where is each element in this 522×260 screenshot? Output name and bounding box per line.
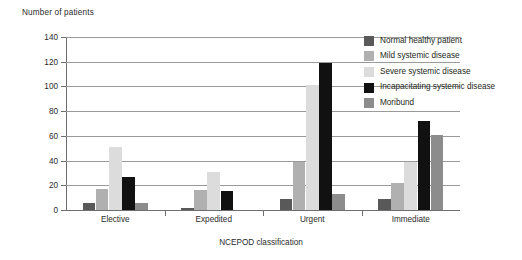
y-axis-title: Number of patients: [22, 8, 94, 17]
y-axis-tick-label: 20: [49, 181, 58, 190]
x-axis-tick-label: Immediate: [392, 215, 430, 224]
y-axis-tick-label: 140: [44, 33, 58, 42]
y-axis-tick: [61, 86, 66, 87]
legend-item: Mild systemic disease: [364, 49, 495, 65]
chart-legend: Normal healthy patientMild systemic dise…: [364, 33, 495, 111]
bar: [221, 191, 234, 210]
legend-label: Incapacitating systemic disease: [380, 83, 495, 91]
y-axis-tick: [61, 62, 66, 63]
bar-group: [181, 37, 246, 210]
y-axis-line: [66, 37, 67, 210]
legend-item: Severe systemic disease: [364, 64, 495, 80]
y-axis-tick-label: 60: [49, 131, 58, 140]
legend-item: Incapacitating systemic disease: [364, 80, 495, 96]
bar: [418, 121, 431, 210]
bar: [378, 199, 391, 210]
bar: [109, 147, 122, 210]
bar: [280, 199, 293, 210]
y-axis-tick-label: 80: [49, 107, 58, 116]
bar-group: [280, 37, 345, 210]
y-axis-tick-label: 40: [49, 156, 58, 165]
bar: [181, 208, 194, 210]
y-axis-tick: [61, 210, 66, 211]
bar: [83, 203, 96, 210]
x-axis-tick: [263, 210, 264, 216]
bar: [122, 177, 135, 210]
legend-swatch: [364, 51, 374, 61]
legend-label: Normal healthy patient: [380, 37, 462, 45]
x-axis-tick: [362, 210, 363, 216]
y-axis-tick: [61, 136, 66, 137]
bar: [207, 172, 220, 210]
x-axis-title: NCEPOD classification: [0, 238, 522, 247]
y-axis-tick: [61, 111, 66, 112]
bar: [306, 85, 319, 210]
bar: [431, 135, 444, 210]
legend-item: Moribund: [364, 95, 495, 111]
y-axis-tick: [61, 37, 66, 38]
bar: [194, 190, 207, 210]
bar-chart-figure: Number of patients 020406080100120140 El…: [0, 0, 522, 260]
legend-label: Moribund: [380, 99, 414, 107]
legend-label: Mild systemic disease: [380, 52, 460, 60]
bar: [96, 189, 109, 210]
bar: [404, 162, 417, 210]
y-axis-tick-label: 0: [53, 206, 58, 215]
y-axis-tick-label: 100: [44, 82, 58, 91]
legend-item: Normal healthy patient: [364, 33, 495, 49]
y-axis-tick-label: 120: [44, 57, 58, 66]
bar: [319, 63, 332, 210]
bar: [332, 194, 345, 210]
legend-swatch: [364, 98, 374, 108]
y-axis-tick: [61, 185, 66, 186]
x-axis-tick-label: Elective: [101, 215, 130, 224]
bar: [293, 162, 306, 210]
x-axis-tick-label: Urgent: [300, 215, 325, 224]
x-axis-tick: [165, 210, 166, 216]
x-axis-tick-label: Expedited: [196, 215, 232, 224]
legend-swatch: [364, 83, 374, 93]
y-axis-tick: [61, 161, 66, 162]
bar: [391, 183, 404, 210]
legend-swatch: [364, 67, 374, 77]
bar-group: [83, 37, 148, 210]
legend-label: Severe systemic disease: [380, 68, 471, 76]
legend-swatch: [364, 36, 374, 46]
bar: [135, 203, 148, 210]
